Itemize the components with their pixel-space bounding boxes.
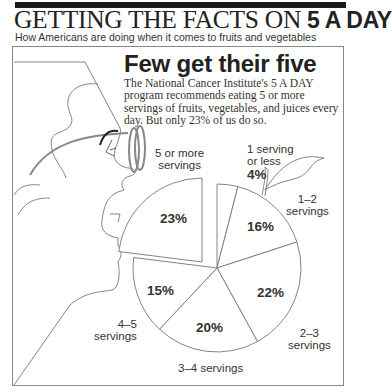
pct-4-5: 15%	[147, 283, 174, 298]
pct-5-or-more: 23%	[160, 211, 187, 226]
label-line: 1–2	[286, 193, 329, 205]
label-line: 2–3	[288, 327, 331, 339]
label-line: servings	[94, 330, 137, 342]
pct-1-2: 16%	[247, 219, 274, 234]
label-line: or less	[247, 155, 294, 167]
label-1-or-less: 1 serving or less	[247, 143, 294, 167]
pct-2-3: 22%	[257, 285, 284, 300]
label-line: 3–4 servings	[178, 362, 243, 374]
label-line: 4–5	[94, 318, 137, 330]
label-line: 1 serving	[247, 143, 294, 155]
pct-3-4: 20%	[196, 320, 223, 335]
label-4-5: 4–5 servings	[94, 318, 137, 342]
pct-1-or-less: 4%	[247, 167, 267, 182]
label-line: servings	[286, 205, 329, 217]
label-line: servings	[155, 159, 204, 171]
label-line: servings	[288, 339, 331, 351]
chart-heading: Few get their five	[124, 50, 316, 78]
label-2-3: 2–3 servings	[288, 327, 331, 351]
label-5-or-more: 5 or more servings	[155, 147, 204, 171]
chart-intro: The National Cancer Institute's 5 A DAY …	[124, 78, 342, 127]
label-3-4: 3–4 servings	[178, 362, 243, 374]
label-line: 5 or more	[155, 147, 204, 159]
label-1-2: 1–2 servings	[286, 193, 329, 217]
